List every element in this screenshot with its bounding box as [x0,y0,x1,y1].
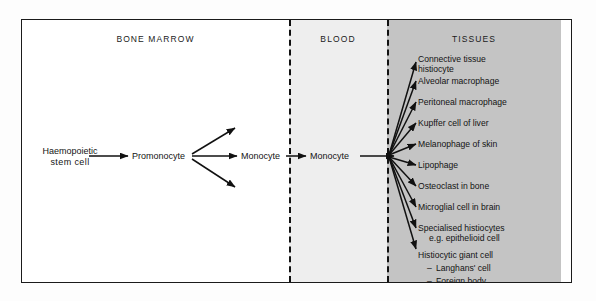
node-monocyte-marrow: Monocyte [241,151,280,162]
compartment-label-tissues: TISSUES [387,34,561,44]
tissue-item-lipophage: Lipophage [418,160,566,170]
tissue-item-line-2: e.g. epithelioid cell [418,233,566,243]
diagram-frame: BONE MARROW BLOOD TISSUES [21,19,572,283]
stem-cell-line-2: stem cell [29,157,111,168]
subtype-label: Foreign body [436,276,486,283]
compartment-label-blood: BLOOD [289,34,387,44]
node-promonocyte: Promonocyte [132,151,185,162]
tissue-item-peritoneal-macrophage: Peritoneal macrophage [418,97,566,107]
tissue-item-line-1: Osteoclast in bone [418,181,566,191]
divider-blood-tissues [387,20,389,282]
divider-marrow-blood [289,20,291,282]
tissue-item-line-1: Microglial cell in brain [418,202,566,212]
subtype-dash: – [427,263,436,273]
tissue-item-kupffer-cell-of-liver: Kupffer cell of liver [418,118,566,128]
tissue-item-line-2: histiocyte [418,64,566,74]
node-haemopoietic-stem-cell: Haemopoietic stem cell [29,146,111,168]
tissue-item-microglial-cell-in-brain: Microglial cell in brain [418,202,566,212]
figure-canvas: BONE MARROW BLOOD TISSUES [0,0,596,301]
tissue-item-specialised-histiocytes: Specialised histiocytes e.g. epithelioid… [418,223,566,244]
compartment-label-bone-marrow: BONE MARROW [22,34,289,44]
tissue-item-alveolar-macrophage: Alveolar macrophage [418,76,566,86]
tissue-item-connective-tissue-histiocyte: Connective tissue histiocyte [418,54,566,75]
tissue-item-osteoclast-in-bone: Osteoclast in bone [418,181,566,191]
tissue-item-line-1: Histiocytic giant cell [418,250,566,260]
tissue-item-line-1: Peritoneal macrophage [418,97,566,107]
stem-cell-line-1: Haemopoietic [42,146,97,156]
tissue-item-line-1: Connective tissue [418,54,566,64]
tissue-item-line-1: Alveolar macrophage [418,76,566,86]
subtype-dash: – [427,276,436,283]
tissue-item-line-1: Kupffer cell of liver [418,118,566,128]
tissue-item-histiocytic-giant-cell: Histiocytic giant cell [418,250,566,260]
tissue-item-line-1: Specialised histiocytes [418,223,566,233]
giant-cell-subtype-foreign-body: –Foreign body [418,276,572,283]
tissue-item-melanophage-of-skin: Melanophage of skin [418,139,566,149]
subtype-label: Langhans' cell [436,263,491,273]
tissue-item-line-1: Lipophage [418,160,566,170]
giant-cell-subtype-langhans: –Langhans' cell [418,263,572,273]
tissue-item-line-1: Melanophage of skin [418,139,566,149]
node-monocyte-blood: Monocyte [310,151,349,162]
